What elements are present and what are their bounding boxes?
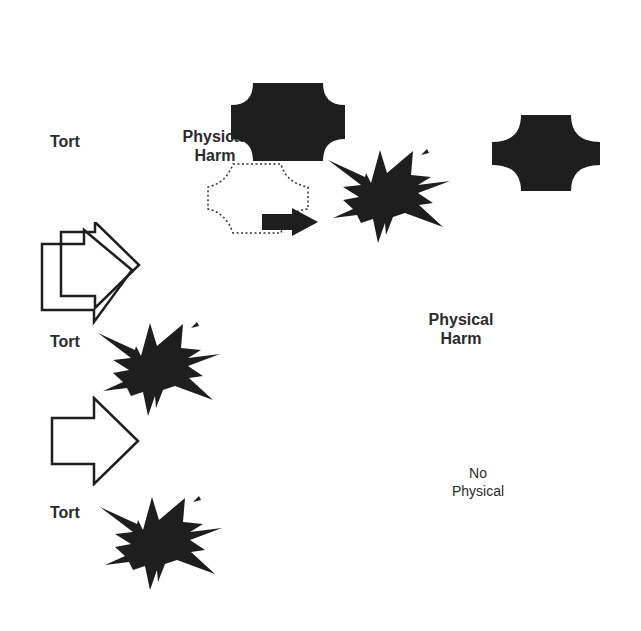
label-tort-bottom: Tort — [50, 503, 90, 522]
label-tort-top: Tort — [50, 132, 90, 151]
label-no-physical: No Physical — [428, 464, 528, 500]
explosion-shape-top — [323, 145, 453, 245]
plaque-shape-top-right — [492, 115, 600, 191]
explosion-shape-bottom — [95, 492, 225, 592]
label-tort-middle: Tort — [50, 332, 90, 351]
small-arrow-icon — [260, 208, 320, 236]
double-arrow-icon — [36, 222, 146, 332]
outline-arrow-icon — [50, 396, 145, 486]
diagram-canvas: Tort Physical Harm Tort Physical Harm To… — [0, 0, 641, 631]
label-physical-harm-right: Physical Harm — [411, 310, 511, 348]
